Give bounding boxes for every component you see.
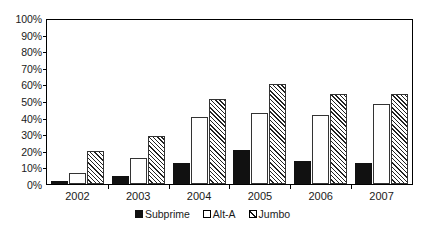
bar-alt-a-2002 <box>69 173 86 184</box>
y-tick-label: 40% <box>21 113 42 124</box>
y-tick-label: 50% <box>21 97 42 108</box>
y-tick-label: 30% <box>21 130 42 141</box>
y-tick-label: 100% <box>16 14 42 25</box>
y-axis: 100%90%80%70%60%50%40%30%20%10%0% <box>0 19 42 185</box>
bar-jumbo-2002 <box>87 151 104 184</box>
bar-group-2005 <box>229 20 290 184</box>
hatched-square-icon <box>249 210 257 218</box>
empty-square-icon <box>203 210 211 218</box>
y-tick-label: 80% <box>21 47 42 58</box>
y-tick-label: 70% <box>21 63 42 74</box>
bar-jumbo-2005 <box>269 84 286 184</box>
legend-label: Subprime <box>145 208 190 220</box>
x-tick-label-2007: 2007 <box>351 189 412 205</box>
bar-group-2004 <box>169 20 230 184</box>
legend-item-jumbo[interactable]: Jumbo <box>249 208 291 220</box>
x-tick-label-2003: 2003 <box>108 189 169 205</box>
bar-group-2007 <box>351 20 412 184</box>
bar-alt-a-2005 <box>251 113 268 184</box>
bar-subprime-2007 <box>355 163 372 184</box>
legend-label: Alt-A <box>213 208 236 220</box>
bar-jumbo-2004 <box>209 99 226 184</box>
solid-square-icon <box>135 210 143 218</box>
bar-subprime-2004 <box>173 163 190 184</box>
x-axis-labels: 200220032004200520062007 <box>47 189 412 205</box>
bar-alt-a-2007 <box>373 104 390 184</box>
bar-jumbo-2006 <box>330 94 347 184</box>
legend-label: Jumbo <box>259 208 291 220</box>
bar-chart: 100%90%80%70%60%50%40%30%20%10%0% 200220… <box>0 0 425 237</box>
bar-groups <box>47 20 412 184</box>
y-tick-label: 20% <box>21 146 42 157</box>
bar-group-2006 <box>290 20 351 184</box>
y-tick-label: 10% <box>21 163 42 174</box>
legend-item-alt-a[interactable]: Alt-A <box>203 208 236 220</box>
bar-jumbo-2007 <box>391 94 408 184</box>
legend-item-subprime[interactable]: Subprime <box>135 208 190 220</box>
bar-group-2002 <box>47 20 108 184</box>
bar-alt-a-2004 <box>191 117 208 184</box>
y-tick-label: 90% <box>21 30 42 41</box>
x-tick-label-2004: 2004 <box>169 189 230 205</box>
bar-subprime-2006 <box>294 161 311 184</box>
bar-subprime-2003 <box>112 176 129 184</box>
y-tick-label: 0% <box>27 180 42 191</box>
bar-jumbo-2003 <box>148 136 165 184</box>
bar-alt-a-2003 <box>130 158 147 184</box>
chart-legend: SubprimeAlt-AJumbo <box>0 208 425 220</box>
y-tick-label: 60% <box>21 80 42 91</box>
bar-alt-a-2006 <box>312 115 329 184</box>
x-tick-label-2006: 2006 <box>290 189 351 205</box>
x-tick-label-2002: 2002 <box>47 189 108 205</box>
x-tick-label-2005: 2005 <box>229 189 290 205</box>
bar-group-2003 <box>108 20 169 184</box>
bar-subprime-2002 <box>51 181 68 184</box>
bar-subprime-2005 <box>233 150 250 184</box>
